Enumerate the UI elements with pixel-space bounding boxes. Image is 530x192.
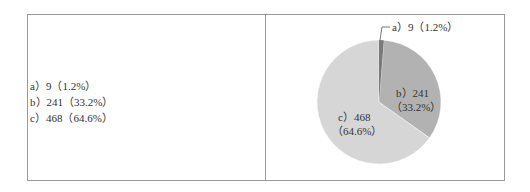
- slice-label-b-pct: （33.2%）: [391, 101, 441, 113]
- legend-item-c: c）468（64.6%）: [30, 110, 113, 126]
- leader-line-a: [380, 27, 390, 40]
- legend-panel: a）9（1.2%） b）241（33.2%） c）468（64.6%）: [30, 78, 113, 126]
- slice-label-b-value: b）241: [396, 87, 429, 99]
- legend-item-b: b）241（33.2%）: [30, 94, 113, 110]
- slice-label-c-pct: （64.6%）: [332, 125, 382, 137]
- legend-item-a: a）9（1.2%）: [30, 78, 113, 94]
- slice-label-a: a）9（1.2%）: [392, 21, 458, 33]
- slice-label-c-value: c）468: [338, 111, 371, 123]
- pie-chart: a）9（1.2%） b）241 （33.2%） c）468 （64.6%）: [266, 15, 505, 180]
